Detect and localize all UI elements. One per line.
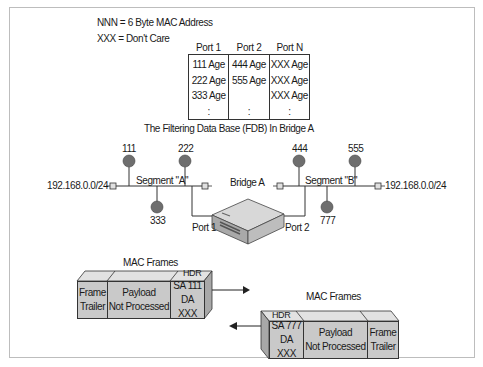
frame-header-sa: SA 111 xyxy=(173,279,201,293)
frame-payload-line1: Payload xyxy=(122,286,155,300)
port1-label: Port 1 xyxy=(192,222,216,233)
arrow-left-icon xyxy=(229,322,261,330)
host-label-111: 111 xyxy=(122,143,136,154)
frame-header-da: DA XXX xyxy=(270,333,303,361)
frame-trailer-line1: Frame xyxy=(370,326,397,340)
outgoing-mac-frame: SA 777 DA XXX Payload Not Processed Fram… xyxy=(269,321,399,359)
host-label-777: 777 xyxy=(320,215,336,226)
host-label-333: 333 xyxy=(150,215,166,226)
frame-trailer: Frame Trailer xyxy=(368,321,399,359)
arrow-right-icon xyxy=(212,286,250,294)
frame-payload-line2: Not Processed xyxy=(305,340,365,354)
segment-a-label: Segment "A" xyxy=(136,175,188,186)
segment-b-label: Segment "B" xyxy=(305,175,357,186)
host-label-444: 444 xyxy=(292,143,308,154)
frame-payload: Payload Not Processed xyxy=(108,281,171,319)
frame-payload-line1: Payload xyxy=(319,326,352,340)
bridge-label: Bridge A xyxy=(230,177,265,188)
frame-payload-line2: Not Processed xyxy=(109,300,169,314)
incoming-hdr-label: HDR xyxy=(183,268,201,278)
frame-payload: Payload Not Processed xyxy=(304,321,368,359)
frame-trailer: Frame Trailer xyxy=(77,281,108,319)
bridge-device-icon xyxy=(212,199,284,244)
incoming-frames-title: MAC Frames xyxy=(123,257,178,268)
outgoing-frames-title: MAC Frames xyxy=(306,291,361,302)
frame-trailer-line2: Trailer xyxy=(370,340,395,354)
frame-trailer-line2: Trailer xyxy=(80,300,105,314)
frame-header: SA 777 DA XXX xyxy=(269,321,304,359)
segment-b-subnet: 192.168.0.0/24 xyxy=(385,180,446,191)
host-label-222: 222 xyxy=(178,143,194,154)
frame-header-da: DA XXX xyxy=(171,293,204,321)
frame-trailer-line1: Frame xyxy=(79,286,106,300)
frame-header: SA 111 DA XXX xyxy=(171,281,205,319)
frame-header-sa: SA 777 xyxy=(272,319,302,333)
incoming-mac-frame: Frame Trailer Payload Not Processed SA 1… xyxy=(77,281,205,319)
segment-a-subnet: 192.168.0.0/24 xyxy=(47,180,108,191)
host-label-555: 555 xyxy=(348,143,364,154)
port2-label: Port 2 xyxy=(285,222,309,233)
